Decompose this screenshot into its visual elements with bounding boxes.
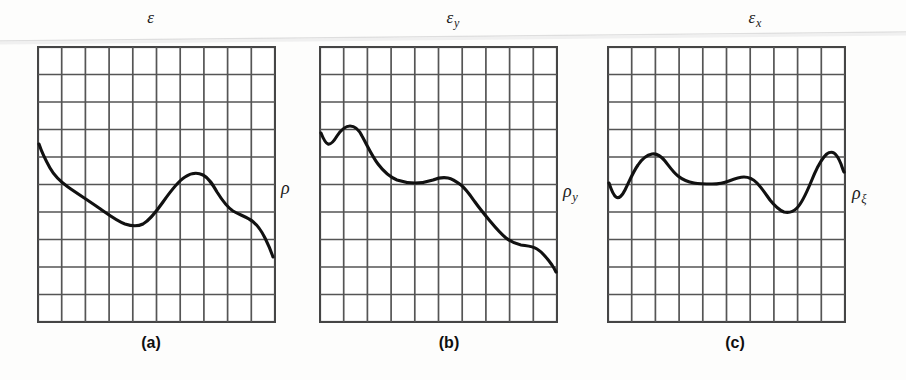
panel-c-plot (607, 46, 846, 323)
panel-b-top-label-sub: y (454, 16, 460, 30)
panel-c-side-label: ρξ (852, 183, 867, 207)
panel-a-grid (38, 47, 275, 322)
panel-a-side-label: ρ (281, 178, 290, 202)
panel-c-plot-svg (607, 46, 846, 323)
panel-a-caption: (a) (0, 334, 302, 352)
panel-a-top-label-base: ε (147, 8, 154, 27)
panel-c-side-label-sub: ξ (861, 192, 866, 206)
panel-c-caption: (c) (584, 334, 886, 352)
panel-a-plot (37, 46, 276, 323)
figure-container: ε (0, 0, 906, 380)
panel-b-top-label-base: ε (447, 8, 454, 27)
panel-a-top-label: ε (0, 8, 302, 31)
panel-b: εy (302, 0, 604, 380)
panel-c-top-label-base: ε (749, 8, 756, 27)
panel-b-plot-svg (319, 46, 558, 323)
panel-c: εx (604, 0, 906, 380)
panel-a: ε (0, 0, 302, 380)
panel-a-side-label-base: ρ (281, 178, 290, 198)
panel-b-grid (320, 47, 557, 322)
panel-c-side-label-base: ρ (852, 183, 861, 203)
panel-b-side-label-sub: y (572, 190, 578, 204)
panel-a-plot-svg (37, 46, 276, 323)
panel-c-top-label-sub: x (756, 16, 762, 30)
panel-c-top-label: εx (604, 8, 906, 31)
panel-b-side-label: ρy (563, 181, 578, 205)
panel-b-side-label-base: ρ (563, 181, 572, 201)
panel-b-top-label: εy (302, 8, 604, 31)
panel-b-caption: (b) (298, 334, 600, 352)
panel-b-plot (319, 46, 558, 323)
